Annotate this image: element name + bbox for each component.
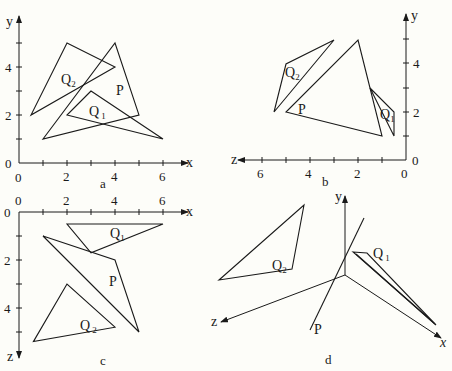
panel-a-label-q2: Q2 <box>61 72 76 89</box>
panel-c: x z 0 0 2 4 6 2 4 Q1 P Q2 c <box>4 193 193 368</box>
panel-a-caption: a <box>100 176 106 191</box>
panel-a-triangle-q1 <box>67 91 163 139</box>
panel-a-origin-h: 0 <box>15 170 22 185</box>
panel-d: y x z Q2 P Q1 d <box>211 189 447 367</box>
projection-figure: y x 0 0 2 4 6 2 4 Q2 P Q1 a <box>0 0 452 371</box>
panel-d-triangle-q1-inner-edge <box>356 254 435 324</box>
panel-d-caption: d <box>325 352 332 367</box>
panel-a-xtick-2: 2 <box>63 169 70 184</box>
panel-c-label-p: P <box>109 274 117 289</box>
panel-a-y-label: y <box>6 14 13 29</box>
panel-b-triangle-p <box>286 40 382 136</box>
panel-b-ytick-2: 2 <box>413 105 420 120</box>
panel-d-x-label: x <box>439 335 447 350</box>
panel-a: y x 0 0 2 4 6 2 4 Q2 P Q1 a <box>5 14 193 191</box>
panel-c-ztick-4: 4 <box>4 301 11 316</box>
panel-c-xtick-6: 6 <box>159 193 166 208</box>
panel-b-ytick-4: 4 <box>413 56 420 71</box>
panel-d-triangle-q2 <box>219 205 304 280</box>
panel-b-label-q2: Q2 <box>285 65 300 82</box>
panel-c-ticks <box>16 209 163 332</box>
panel-c-x-label: x <box>186 204 193 219</box>
panel-c-xtick-4: 4 <box>111 193 118 208</box>
panel-a-ytick-2: 2 <box>5 108 12 123</box>
panel-b-label-p: P <box>298 102 306 117</box>
panel-c-caption: c <box>100 353 106 368</box>
panel-a-origin-v: 0 <box>5 156 12 171</box>
panel-d-label-p: P <box>314 322 322 337</box>
panel-b: y z 0 0 2 4 6 2 4 Q2 P Q1 b <box>231 8 420 189</box>
panel-b-origin-h: 0 <box>401 166 408 181</box>
panel-c-origin-v: 0 <box>4 205 11 220</box>
panel-c-origin-h: 0 <box>15 193 22 208</box>
panel-a-xtick-4: 4 <box>111 169 118 184</box>
panel-b-ztick-6: 6 <box>257 166 264 181</box>
panel-d-y-label: y <box>335 189 342 204</box>
panel-c-ztick-2: 2 <box>4 253 11 268</box>
panel-d-plane-p-edge <box>310 218 364 330</box>
panel-a-x-label: x <box>186 155 193 170</box>
panel-d-z-axis <box>221 275 345 322</box>
panel-c-label-q2: Q2 <box>80 318 97 335</box>
panel-b-ticks <box>262 39 409 163</box>
panel-b-ztick-2: 2 <box>354 166 361 181</box>
panel-b-y-label: y <box>411 8 418 23</box>
panel-c-z-label: z <box>7 349 13 364</box>
figure-canvas: y x 0 0 2 4 6 2 4 Q2 P Q1 a <box>0 0 452 371</box>
panel-b-ztick-4: 4 <box>305 166 312 181</box>
panel-a-label-q1: Q1 <box>89 104 106 121</box>
panel-d-label-q1: Q1 <box>373 246 390 263</box>
panel-a-label-p: P <box>116 83 124 98</box>
panel-a-ytick-4: 4 <box>5 60 12 75</box>
panel-c-xtick-2: 2 <box>63 193 70 208</box>
panel-d-z-label: z <box>211 314 217 329</box>
panel-d-x-axis <box>345 275 441 338</box>
panel-c-label-q1: Q1 <box>110 226 125 243</box>
panel-d-label-q2: Q2 <box>272 258 287 275</box>
panel-a-xtick-6: 6 <box>159 169 166 184</box>
panel-b-z-label: z <box>231 152 237 167</box>
panel-b-label-q1: Q1 <box>380 107 395 124</box>
panel-b-caption: b <box>322 174 329 189</box>
panel-c-triangle-q2 <box>33 284 115 342</box>
panel-b-origin-v: 0 <box>412 153 419 168</box>
panel-c-triangle-p <box>43 236 139 332</box>
